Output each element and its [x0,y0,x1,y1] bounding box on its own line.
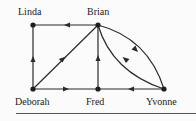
arrow-left-icon [128,87,134,92]
label-brian: Brian [87,7,109,17]
divider-rule [16,113,196,114]
node-linda [30,22,35,27]
arrow-down-right-icon [132,46,139,53]
label-deborah: Deborah [15,97,49,107]
arrow-up-left-icon [123,57,130,63]
label-yvonne: Yvonne [146,97,177,107]
arrowheads [31,23,139,92]
arrow-up-right-icon [59,57,66,63]
label-linda: Linda [18,7,41,17]
edge-brian-yvonne [98,25,164,89]
arrow-left-icon [64,23,70,28]
node-deborah [30,86,35,91]
node-yvonne [161,86,166,91]
edge-yvonne-brian [98,25,164,89]
label-fred: Fred [86,97,104,107]
arrow-up-icon [96,55,101,61]
arrow-right-icon [63,87,69,92]
node-brian [95,22,100,27]
node-fred [95,86,100,91]
arrow-up-icon [31,56,36,62]
